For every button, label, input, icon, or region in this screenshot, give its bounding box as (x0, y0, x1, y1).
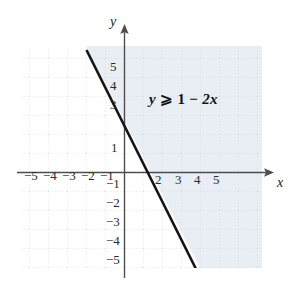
y-tick-label: −3 (106, 215, 120, 228)
greater-equal-icon: ⩾ (160, 91, 173, 107)
y-tick-label: −1 (106, 177, 120, 190)
x-tick-label: 2 (155, 173, 162, 186)
x-tick-label: 4 (194, 173, 201, 186)
y-tick-label: −5 (106, 253, 120, 266)
minus-icon: − (189, 91, 198, 107)
inequality-graph-figure: −5 −4 −3 −2 −1 2 3 4 5 5 4 3 1 −1 −2 −3 … (0, 0, 297, 286)
inequality-lhs: y (149, 91, 156, 107)
x-tick-label: −5 (24, 169, 38, 182)
inequality-slope-term: 2x (202, 91, 218, 107)
y-axis-label: y (110, 15, 116, 29)
x-tick-label: −3 (62, 169, 76, 182)
y-tick-label: 3 (110, 98, 117, 111)
inequality-annotation: y ⩾ 1 − 2x (149, 92, 218, 107)
y-tick-label: 5 (110, 60, 117, 73)
y-tick-label: 1 (111, 141, 118, 154)
y-tick-label: −4 (106, 234, 120, 247)
inequality-constant: 1 (177, 91, 185, 107)
x-axis-label: x (277, 176, 283, 190)
y-tick-label: −2 (106, 196, 120, 209)
dotted-gridlines (22, 46, 262, 268)
grid-area (22, 46, 262, 268)
x-tick-label: 5 (213, 173, 220, 186)
coordinate-plane-svg (0, 0, 297, 286)
x-tick-label: 3 (175, 173, 182, 186)
x-tick-label: −2 (81, 169, 95, 182)
x-tick-label: −4 (43, 169, 57, 182)
y-tick-label: 4 (110, 79, 117, 92)
